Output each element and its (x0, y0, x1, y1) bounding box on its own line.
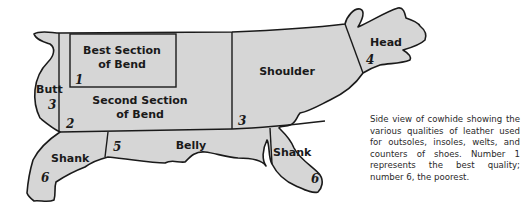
hind-shank-text: Shank (51, 152, 90, 165)
quality-number-3-shoulder: 3 (238, 114, 246, 128)
quality-number-6-hind: 6 (41, 171, 50, 185)
hide-outline (27, 8, 426, 201)
head-text: Head (370, 36, 402, 49)
fore-shank-text: Shank (273, 146, 312, 159)
cowhide-diagram: Best Section of Bend 1 Second Section of… (0, 0, 526, 223)
belly-text: Belly (176, 139, 207, 152)
butt-text: Butt (36, 83, 63, 96)
quality-number-6-fore: 6 (311, 172, 320, 186)
second-section-line2: of Bend (116, 108, 164, 121)
second-section-line1: Second Section (92, 94, 187, 107)
best-section-line2: of Bend (98, 58, 146, 71)
best-section-line1: Best Section (83, 44, 161, 57)
quality-number-3-butt: 3 (48, 98, 56, 112)
quality-number-2: 2 (65, 117, 74, 131)
shoulder-text: Shoulder (259, 65, 315, 78)
quality-number-1: 1 (75, 73, 83, 87)
quality-number-5: 5 (113, 140, 121, 154)
quality-number-4: 4 (366, 53, 374, 67)
figure-caption: Side view of cowhide showing the various… (370, 114, 520, 184)
